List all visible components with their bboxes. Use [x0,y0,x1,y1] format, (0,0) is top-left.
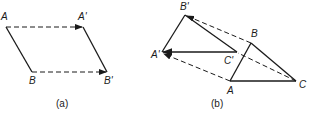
label-a: A [0,11,8,22]
label-b-prime: B' [104,75,114,86]
translation-diagram: A A' B B' (a) B' A' C' B A C (b) [0,0,312,117]
figure-a: A A' B B' (a) [0,11,114,109]
caption-b: (b) [211,98,223,109]
label-b: B [29,75,36,86]
label-a: A [226,85,234,96]
arrow-to-c-prime [185,15,237,52]
label-a-prime: A' [150,49,161,60]
label-b: B [251,28,258,39]
label-a-prime: A' [77,11,88,22]
caption-a: (a) [56,98,68,109]
label-c: C [299,79,307,90]
translation-arrow-a [164,54,230,81]
segment-a-prime-b-prime [83,27,107,72]
figure-b: B' A' C' B A C (b) [150,1,307,109]
segment-a-prime-b-prime [162,15,185,52]
label-b-prime: B' [180,1,190,12]
segment-ab [6,27,32,72]
label-c-prime: C' [224,55,234,66]
